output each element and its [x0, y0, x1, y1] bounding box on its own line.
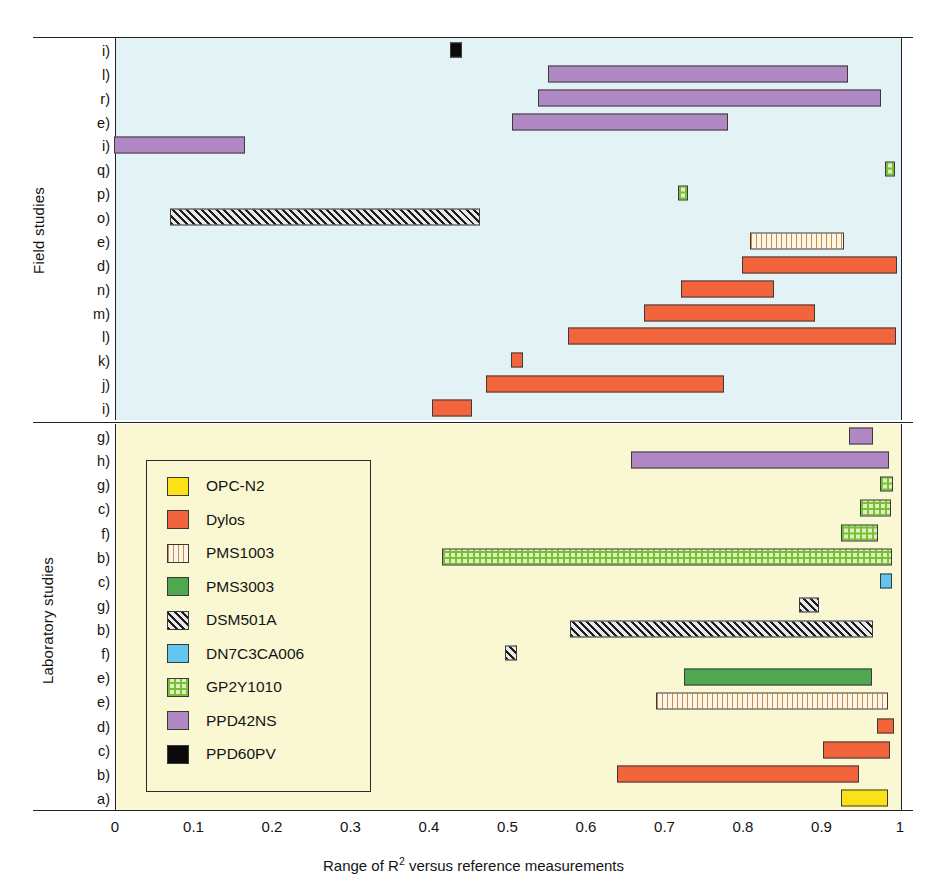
legend-item-label: DN7C3CA006 — [206, 645, 304, 663]
row-tick-label: e) — [97, 235, 110, 250]
row-tick-label: c) — [98, 575, 110, 590]
legend-item: PMS1003 — [167, 542, 274, 564]
x-axis-label: Range of R2 versus reference measurement… — [0, 855, 947, 874]
legend-swatch-icon — [167, 577, 189, 596]
range-bar — [681, 280, 774, 297]
plot-panel-field-studies — [115, 38, 902, 420]
legend-item-label: PPD42NS — [206, 712, 277, 730]
range-bar — [880, 477, 893, 492]
row-tick-label: l) — [102, 330, 110, 345]
range-bar — [486, 376, 725, 393]
legend-swatch-icon — [167, 477, 189, 496]
x-axis-tick-label: 0 — [111, 818, 119, 835]
x-axis-tick-label: 0.8 — [733, 818, 754, 835]
range-bar — [841, 789, 888, 806]
range-bar — [570, 621, 874, 638]
x-axis-label-before: Range of R — [323, 857, 399, 874]
legend-swatch-icon — [167, 544, 189, 563]
x-axis-tick-label: 0.6 — [576, 818, 597, 835]
legend-item-label: OPC-N2 — [206, 477, 265, 495]
legend-item: PMS3003 — [167, 576, 274, 598]
range-bar — [450, 42, 463, 57]
range-bar — [442, 548, 892, 565]
range-bar — [631, 452, 889, 469]
row-tick-label: g) — [97, 430, 110, 445]
row-tick-label: c) — [98, 743, 110, 758]
legend-item-label: GP2Y1010 — [206, 678, 282, 696]
row-tick-label: e) — [97, 115, 110, 130]
row-tick-label: q) — [97, 163, 110, 178]
x-axis-tick-label: 0.9 — [811, 818, 832, 835]
range-bar — [548, 65, 849, 82]
row-tick-label: k) — [98, 354, 110, 369]
legend-item: GP2Y1010 — [167, 676, 282, 698]
range-bar — [678, 186, 688, 201]
frame-rule-middle — [33, 422, 913, 423]
legend-item: PPD60PV — [167, 743, 276, 765]
row-tick-label: j) — [102, 378, 110, 393]
row-tick-label: a) — [97, 792, 110, 807]
row-tick-label: e) — [97, 695, 110, 710]
range-bar — [880, 573, 892, 588]
row-tick-label: l) — [102, 68, 110, 83]
range-bar — [170, 209, 480, 226]
row-tick-label: n) — [97, 282, 110, 297]
range-bar — [750, 232, 844, 249]
x-axis-tick-label: 0.2 — [262, 818, 283, 835]
panel-title-field-studies: Field studies — [30, 131, 47, 331]
row-tick-label: r) — [100, 91, 110, 106]
row-tick-label: b) — [97, 623, 110, 638]
x-axis-tick-label: 0.5 — [497, 818, 518, 835]
legend-item-label: PMS1003 — [206, 544, 274, 562]
range-bar — [644, 304, 814, 321]
row-tick-label: d) — [97, 259, 110, 274]
legend-item: DSM501A — [167, 609, 277, 631]
row-tick-label: i) — [102, 139, 110, 154]
row-labels-laboratory-studies: g)h)g)c)f)b)c)g)b)f)e)e)d)c)b)a) — [60, 424, 110, 810]
range-bar — [742, 256, 897, 273]
x-axis: 00.10.20.30.40.50.60.70.80.91 — [115, 810, 900, 811]
range-bar — [885, 162, 895, 177]
range-bar — [505, 646, 518, 661]
row-tick-label: m) — [93, 306, 110, 321]
range-bar — [114, 137, 244, 154]
row-tick-label: d) — [97, 719, 110, 734]
panel-title-laboratory-studies: Laboratory studies — [39, 506, 56, 736]
range-bar — [877, 718, 893, 733]
row-tick-label: g) — [97, 478, 110, 493]
row-tick-label: o) — [97, 211, 110, 226]
legend-swatch-icon — [167, 611, 189, 630]
row-tick-label: i) — [102, 402, 110, 417]
row-tick-label: f) — [101, 647, 110, 662]
range-bar — [538, 89, 881, 106]
legend-swatch-icon — [167, 745, 189, 764]
legend-item: DN7C3CA006 — [167, 643, 304, 665]
row-tick-label: b) — [97, 768, 110, 783]
range-bar — [511, 353, 523, 368]
x-axis-tick-label: 0.4 — [419, 818, 440, 835]
legend-item-label: DSM501A — [206, 611, 277, 629]
range-bar — [684, 669, 872, 686]
row-tick-label: g) — [97, 599, 110, 614]
row-labels-field-studies: i)l)r)e)i)q)p)o)e)d)n)m)l)k)j)i) — [60, 38, 110, 420]
legend-item: PPD42NS — [167, 710, 277, 732]
row-tick-label: e) — [97, 671, 110, 686]
range-bar — [841, 524, 879, 541]
range-bar — [799, 597, 819, 612]
legend-swatch-icon — [167, 678, 189, 697]
legend-item-label: PMS3003 — [206, 578, 274, 596]
range-bar — [512, 113, 728, 130]
legend-item-label: Dylos — [206, 511, 245, 529]
range-bar — [860, 500, 891, 517]
row-tick-label: p) — [97, 187, 110, 202]
range-bar — [849, 428, 873, 445]
x-axis-tick-label: 0.3 — [340, 818, 361, 835]
row-tick-label: c) — [98, 502, 110, 517]
range-bar — [432, 400, 471, 417]
x-axis-label-after: versus reference measurements — [405, 857, 624, 874]
legend-swatch-icon — [167, 510, 189, 529]
x-axis-tick-label: 0.7 — [654, 818, 675, 835]
row-tick-label: f) — [101, 526, 110, 541]
row-tick-label: b) — [97, 550, 110, 565]
legend: OPC-N2DylosPMS1003PMS3003DSM501ADN7C3CA0… — [146, 460, 371, 792]
